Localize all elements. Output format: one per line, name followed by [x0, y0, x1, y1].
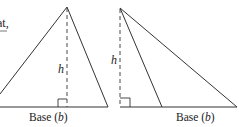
right-angle-marker — [58, 99, 67, 107]
caption-fragment: at, — [0, 16, 9, 30]
base-label: Base (b) — [176, 111, 215, 124]
right-angle-marker — [120, 98, 130, 107]
obtuse-triangle: h Base (b) — [111, 8, 237, 124]
triangle-sides — [0, 7, 108, 107]
base-label: Base (b) — [29, 111, 68, 124]
height-label: h — [58, 62, 64, 76]
triangle-area-diagram: at, h Base (b) h Base (b) — [0, 0, 239, 127]
triangle-sides — [120, 8, 237, 107]
height-label: h — [111, 53, 117, 67]
acute-triangle: h Base (b) — [0, 7, 108, 124]
